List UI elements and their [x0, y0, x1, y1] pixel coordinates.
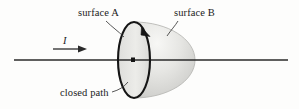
current-direction-arrow [53, 46, 87, 53]
leader-line-surface-a [106, 21, 124, 37]
label-surface-b: surface B [174, 8, 215, 19]
diagram-canvas [0, 0, 299, 109]
label-current-i: I [63, 36, 67, 47]
label-surface-a: surface A [78, 8, 119, 19]
wire-pierce-point [131, 58, 135, 63]
physics-diagram-figure: surface A surface B closed path I [0, 0, 299, 109]
label-closed-path: closed path [60, 88, 109, 99]
